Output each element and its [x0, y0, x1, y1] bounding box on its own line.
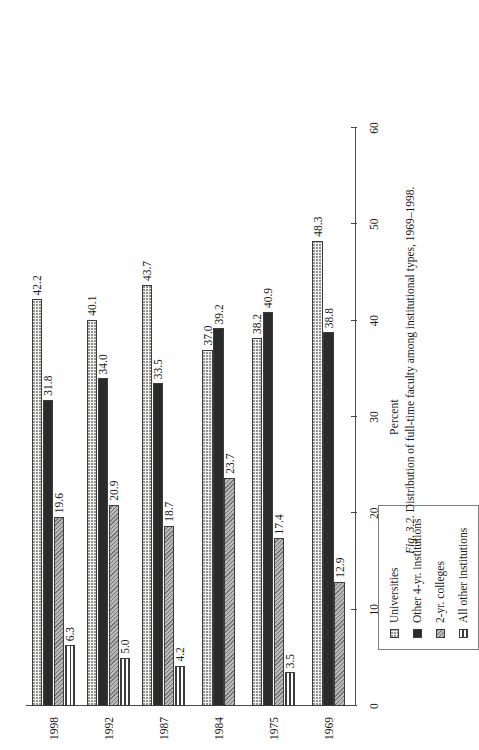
bar-row: 4.2: [175, 128, 186, 706]
legend-item-all-other-institutions: All other institutions: [457, 519, 469, 638]
bar-row: 33.5: [153, 128, 164, 706]
value-axis-tick-label: 40: [368, 315, 380, 327]
bar-row: 38.2: [252, 128, 263, 706]
bar-row: 6.3: [65, 128, 76, 706]
bar-value-label: 38.8: [323, 308, 335, 332]
bar-row: 31.8: [43, 128, 54, 706]
bar-value-label: 3.5: [284, 654, 296, 672]
bar-value-label: 20.9: [108, 481, 120, 505]
bar-value-label: 18.7: [163, 502, 175, 526]
bar-value-label: 34.0: [97, 354, 109, 378]
universities-icon: [390, 629, 399, 638]
bar-value-label: 42.2: [31, 275, 43, 299]
bar-other-4-yr-institutions-1975: [263, 312, 274, 706]
bar-value-label: 5.0: [119, 639, 131, 657]
bar-row: 34.0: [98, 128, 109, 706]
bar-value-label: 4.2: [174, 647, 186, 665]
bar-row: 40.1: [87, 128, 98, 706]
bar-all-other-institutions-1992: [120, 658, 131, 706]
bar-2-yr-colleges-1975: [274, 538, 285, 706]
bar-row: 23.7: [224, 128, 235, 706]
bar-universities-1969: [312, 241, 323, 706]
bar-row: 19.6: [54, 128, 65, 706]
bar-value-label: 6.3: [64, 627, 76, 645]
category-label-1984: 1984: [213, 717, 225, 740]
bar-group-1987: 198743.733.518.74.2: [136, 128, 191, 706]
bar-group-1975: 197538.240.917.43.5: [246, 128, 301, 706]
category-label-1987: 1987: [158, 717, 170, 740]
legend-item-2-yr-colleges: 2-yr. colleges: [434, 519, 446, 638]
category-label-1975: 1975: [268, 717, 280, 740]
bar-value-label: 37.0: [202, 325, 214, 349]
bar-value-label: 43.7: [141, 261, 153, 285]
bar-other-4-yr-institutions-1984: [213, 328, 224, 706]
bar-other-4-yr-institutions-1987: [153, 383, 164, 706]
bar-row: 37.0: [202, 128, 213, 706]
value-axis-tick-label: 0: [368, 703, 380, 709]
bar-value-label: 40.9: [262, 288, 274, 312]
bar-value-label: 23.7: [224, 454, 236, 478]
bar-row: 17.4: [274, 128, 285, 706]
bar-value-label: 38.2: [251, 314, 263, 338]
value-axis-tick-label: 30: [368, 411, 380, 423]
bar-all-other-institutions-1975: [285, 672, 296, 706]
2yr-icon: [436, 629, 445, 638]
category-label-1969: 1969: [323, 717, 335, 740]
bar-universities-1975: [252, 338, 263, 706]
figure-caption-text: Distribution of full-time faculty among …: [404, 187, 416, 512]
chart-plot-area: 0102030405060 196948.338.812.9197538.240…: [26, 128, 356, 706]
bar-value-label: 12.9: [334, 558, 346, 582]
bar-group-1998: 199842.231.819.66.3: [26, 128, 81, 706]
bar-row: 40.9: [263, 128, 274, 706]
figure-number: Fig. 3.2.: [404, 515, 416, 554]
bar-2-yr-colleges-1984: [224, 478, 235, 706]
chart-legend: UniversitiesOther 4-yr. institutions2-yr…: [378, 505, 479, 650]
bar-row: 3.5: [285, 128, 296, 706]
bar-value-label: 40.1: [86, 296, 98, 320]
bar-row: 48.3: [312, 128, 323, 706]
legend-item-universities: Universities: [388, 519, 400, 638]
bar-universities-1992: [87, 320, 98, 706]
category-label-1992: 1992: [103, 717, 115, 740]
bar-2-yr-colleges-1969: [334, 582, 345, 706]
bar-other-4-yr-institutions-1992: [98, 378, 109, 706]
bar-all-other-institutions-1998: [65, 645, 76, 706]
bar-row: 43.7: [142, 128, 153, 706]
other-4yr-icon: [413, 629, 422, 638]
bar-group-1969: 196948.338.812.9: [301, 128, 356, 706]
bar-row: 18.7: [164, 128, 175, 706]
value-axis-tick-label: 60: [368, 122, 380, 134]
bar-2-yr-colleges-1992: [109, 505, 120, 706]
bar-2-yr-colleges-1998: [54, 517, 65, 706]
legend-item-label: Universities: [388, 567, 400, 623]
bar-value-label: 17.4: [273, 514, 285, 538]
bar-universities-1984: [202, 350, 213, 706]
value-axis-tick-label: 50: [368, 219, 380, 231]
bar-row: 38.8: [323, 128, 334, 706]
category-label-1998: 1998: [48, 717, 60, 740]
bar-2-yr-colleges-1987: [164, 526, 175, 706]
bar-value-label: 31.8: [42, 376, 54, 400]
bar-value-label: 39.2: [213, 304, 225, 328]
bar-value-label: 19.6: [53, 493, 65, 517]
bar-other-4-yr-institutions-1969: [323, 332, 334, 706]
value-axis-title: Percent: [388, 399, 400, 435]
bar-row: 42.2: [32, 128, 43, 706]
bar-universities-1998: [32, 299, 43, 706]
legend-item-label: All other institutions: [457, 528, 469, 623]
bar-row: 39.2: [213, 128, 224, 706]
bar-row: 12.9: [334, 128, 345, 706]
all-other-icon: [459, 629, 468, 638]
bar-value-label: 33.5: [152, 359, 164, 383]
bar-value-label: 48.3: [312, 217, 324, 241]
bar-row: 5.0: [120, 128, 131, 706]
bar-universities-1987: [142, 285, 153, 706]
bar-all-other-institutions-1987: [175, 666, 186, 706]
legend-item-label: 2-yr. colleges: [434, 561, 446, 623]
bar-row: 20.9: [109, 128, 120, 706]
bar-group-1984: 198437.039.223.7: [191, 128, 246, 706]
bar-other-4-yr-institutions-1998: [43, 400, 54, 706]
bar-group-1992: 199240.134.020.95.0: [81, 128, 136, 706]
